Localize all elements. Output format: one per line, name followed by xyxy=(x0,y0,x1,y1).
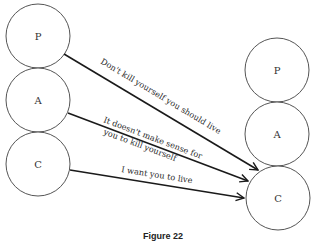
left-child-label: C xyxy=(34,159,42,170)
right-child-label: C xyxy=(274,193,282,204)
right-adult-label: A xyxy=(272,129,281,140)
left-child-node: C xyxy=(6,132,70,196)
transaction-diagram: P A C P A C Don't kill yourself you shou… xyxy=(0,0,313,242)
right-adult-node: A xyxy=(245,102,309,166)
right-parent-node: P xyxy=(245,38,309,102)
right-child-node: C xyxy=(246,166,310,230)
right-parent-label: P xyxy=(274,65,281,76)
left-parent-node: P xyxy=(6,4,70,68)
left-parent-label: P xyxy=(35,31,42,42)
left-adult-label: A xyxy=(33,95,42,106)
edge-label-child-to-child: I want you to live xyxy=(121,164,194,185)
figure-caption: Figure 22 xyxy=(143,231,183,241)
left-adult-node: A xyxy=(6,68,70,132)
